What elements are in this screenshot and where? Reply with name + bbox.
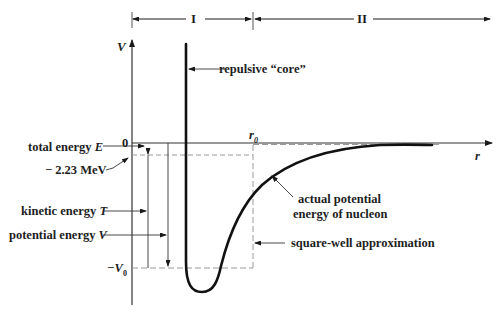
region-bracket bbox=[132, 12, 490, 30]
actual-potential-curve bbox=[186, 44, 432, 292]
kinetic-energy-label: kinetic energy T bbox=[21, 205, 107, 218]
square-well-label: square-well approximation bbox=[291, 237, 435, 250]
repulsive-core-label: repulsive “core” bbox=[219, 63, 306, 76]
region-i-label: I bbox=[191, 12, 196, 25]
potential-energy-label: potential energy V bbox=[9, 229, 107, 242]
kinetic-energy-text: kinetic energy bbox=[21, 204, 99, 218]
total-energy-label: total energy E bbox=[28, 141, 103, 154]
r0-label: r0 bbox=[249, 129, 258, 145]
minus-v0-symbol: −V bbox=[107, 261, 123, 275]
total-energy-text: total energy bbox=[28, 140, 95, 154]
actual-potential-label-line1: actual potential bbox=[298, 193, 381, 206]
binding-energy-label: − 2.23 MeV bbox=[45, 164, 107, 177]
minus-v0-subscript: 0 bbox=[123, 269, 127, 278]
x-axis-label: r bbox=[475, 150, 480, 163]
actual-potential-label-line2: energy of nucleon bbox=[293, 208, 387, 221]
potential-well-diagram bbox=[0, 0, 498, 317]
potential-energy-symbol: V bbox=[99, 228, 107, 242]
zero-label: 0 bbox=[122, 137, 128, 150]
y-axis-label: V bbox=[117, 40, 126, 53]
energy-indicators bbox=[148, 143, 168, 268]
minus-v0-label: −V0 bbox=[107, 262, 127, 278]
region-ii-label: II bbox=[357, 12, 367, 25]
r0-subscript: 0 bbox=[254, 136, 258, 145]
potential-energy-text: potential energy bbox=[9, 228, 99, 242]
kinetic-energy-symbol: T bbox=[99, 204, 107, 218]
total-energy-symbol: E bbox=[95, 140, 103, 154]
